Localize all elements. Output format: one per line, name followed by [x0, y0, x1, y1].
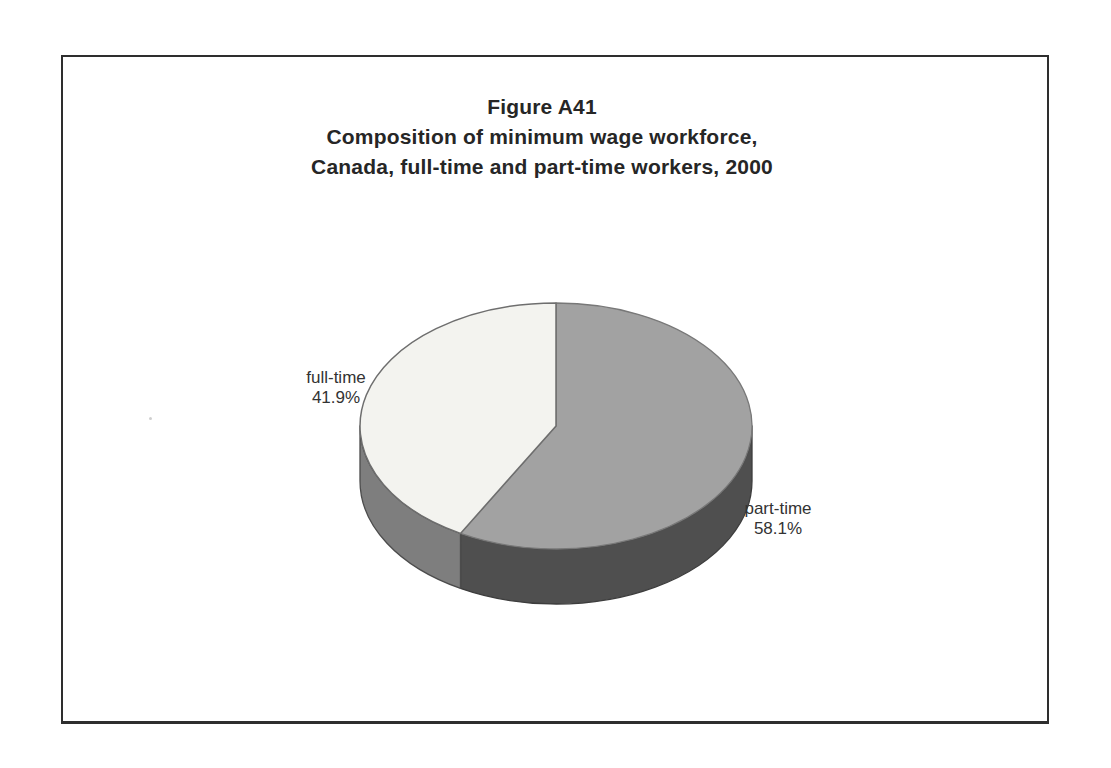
slice-label-full-time-pct: 41.9% — [251, 388, 421, 408]
slice-label-part-time-pct: 58.1% — [693, 519, 863, 539]
figure-page: Figure A41 Composition of minimum wage w… — [0, 0, 1111, 768]
slice-label-part-time: part-time 58.1% — [693, 499, 863, 539]
scan-speck — [149, 417, 152, 420]
slice-label-part-time-name: part-time — [693, 499, 863, 519]
slice-label-full-time: full-time 41.9% — [251, 368, 421, 408]
pie-chart-3d — [0, 0, 1111, 768]
slice-label-full-time-name: full-time — [251, 368, 421, 388]
